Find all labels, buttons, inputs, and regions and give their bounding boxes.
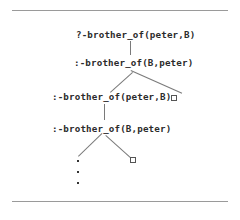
sld-resolution-tree-figure: ?-brother_of(peter,B) :-brother_of(B,pet… bbox=[0, 0, 240, 220]
ellipsis-dot-2 bbox=[77, 171, 79, 173]
empty-clause-box-upper bbox=[171, 95, 177, 101]
tree-node-goal-query: ?-brother_of(peter,B) bbox=[76, 29, 195, 40]
bottom-divider-rule bbox=[12, 201, 228, 202]
edge-node2-to-node3 bbox=[110, 72, 133, 93]
tree-node-resolvent-2: :-brother_of(peter,B) bbox=[52, 91, 171, 102]
edge-node1-to-node2 bbox=[130, 41, 131, 55]
ellipsis-dot-3 bbox=[77, 182, 79, 184]
tree-node-resolvent-1: :-brother_of(B,peter) bbox=[74, 57, 193, 68]
top-divider-rule bbox=[12, 10, 228, 11]
edge-node3-to-node4 bbox=[104, 104, 105, 120]
edge-node4-to-empty-clause-lower bbox=[105, 135, 130, 158]
ellipsis-dot-1 bbox=[77, 160, 79, 162]
empty-clause-box-lower bbox=[130, 157, 136, 163]
tree-node-resolvent-3: :-brother_of(B,peter) bbox=[52, 123, 171, 134]
edge-node4-to-ellipsis bbox=[78, 133, 102, 157]
